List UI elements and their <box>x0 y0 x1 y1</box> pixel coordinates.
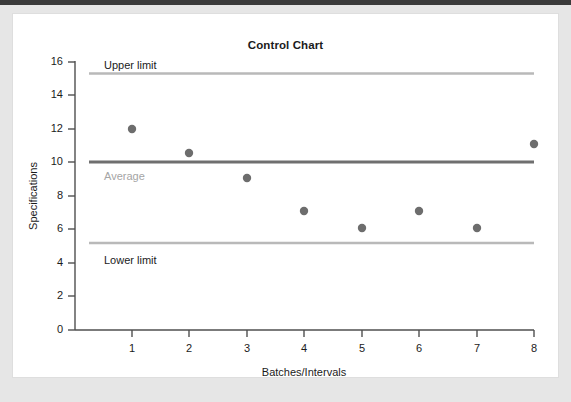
x-axis-title: Batches/Intervals <box>262 366 347 377</box>
y-axis-ticks <box>68 62 75 330</box>
data-point[interactable] <box>530 140 538 148</box>
x-tick-label-4: 4 <box>301 342 307 354</box>
x-axis-ticks <box>132 330 534 337</box>
chart-card: Control Chart 16 14 12 10 <box>13 14 558 377</box>
data-point[interactable] <box>300 207 308 215</box>
y-tick-label-6: 6 <box>57 222 63 234</box>
y-axis-title: Specifications <box>27 162 39 230</box>
x-tick-label-2: 2 <box>186 342 192 354</box>
data-point[interactable] <box>243 174 251 182</box>
y-tick-label-12: 12 <box>51 122 63 134</box>
y-tick-label-8: 8 <box>57 189 63 201</box>
data-point[interactable] <box>415 207 423 215</box>
data-point[interactable] <box>128 125 136 133</box>
data-point[interactable] <box>473 224 481 232</box>
y-tick-label-14: 14 <box>51 88 63 100</box>
data-point-series <box>128 125 538 232</box>
lower-limit-label: Lower limit <box>104 254 157 266</box>
upper-limit-label: Upper limit <box>104 59 157 71</box>
x-tick-label-8: 8 <box>531 342 537 354</box>
x-tick-label-7: 7 <box>474 342 480 354</box>
y-tick-label-16: 16 <box>51 55 63 67</box>
x-tick-label-1: 1 <box>129 342 135 354</box>
control-chart-plot: 16 14 12 10 8 6 4 2 0 1 2 3 <box>13 14 558 377</box>
y-tick-label-10: 10 <box>51 155 63 167</box>
x-tick-label-3: 3 <box>244 342 250 354</box>
data-point[interactable] <box>358 224 366 232</box>
x-tick-label-5: 5 <box>359 342 365 354</box>
y-tick-label-4: 4 <box>57 256 63 268</box>
x-tick-label-6: 6 <box>416 342 422 354</box>
average-label: Average <box>104 170 145 182</box>
data-point[interactable] <box>185 149 193 157</box>
y-tick-label-2: 2 <box>57 289 63 301</box>
y-tick-label-0: 0 <box>57 323 63 335</box>
